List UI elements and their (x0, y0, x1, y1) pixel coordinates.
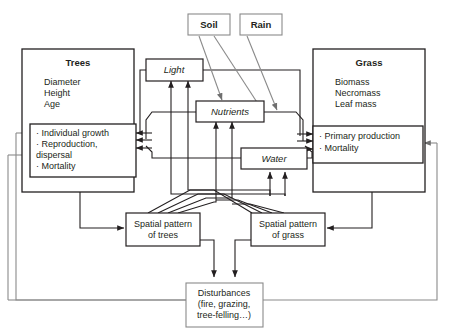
grass-process-0: · Primary production (319, 131, 400, 141)
diagram-canvas: Trees Diameter Height Age · Individual g… (0, 0, 449, 335)
arrow-rain-to-water (247, 36, 277, 110)
trees-attribute-2: Age (44, 99, 60, 109)
grass-attribute-0: Biomass (335, 77, 370, 87)
spatial-grass-line1: Spatial pattern (259, 219, 317, 229)
connector-group-inputs (199, 36, 277, 110)
disturbances-line2: (fire, grazing, (198, 299, 251, 309)
rain-label: Rain (251, 19, 272, 30)
trees-process-3: · Mortality (36, 161, 76, 171)
spatial-trees-line1: Spatial pattern (134, 219, 192, 229)
trees-process-0: · Individual growth (36, 128, 109, 138)
spatial-trees-line2: of trees (148, 230, 179, 240)
link-light-to-trees (140, 70, 146, 133)
link-nutrients-to-grass (264, 112, 303, 141)
link-spatial-grass-to-disturbances (235, 240, 251, 277)
link-grass-to-spatial-grass (327, 192, 372, 228)
link-spatial-trees-to-disturbances (200, 240, 214, 277)
grass-attribute-1: Necromass (335, 88, 381, 98)
cross-trees-to-nutrients (168, 182, 232, 213)
trees-title: Trees (66, 57, 91, 68)
grass-title: Grass (356, 57, 383, 68)
disturbances-line1: Disturbances (198, 288, 251, 298)
link-trees-to-spatial-trees (80, 192, 124, 228)
trees-process-2: dispersal (36, 150, 72, 160)
diagram-svg: Trees Diameter Height Age · Individual g… (0, 0, 449, 335)
disturbances-line3: tree-felling…) (197, 310, 251, 320)
trees-attribute-1: Height (44, 88, 71, 98)
spatial-grass-line2: of grass (272, 230, 305, 240)
trees-process-1: · Reproduction, (36, 139, 98, 149)
grass-process-1: · Mortality (319, 143, 359, 153)
light-label: Light (164, 64, 185, 75)
nutrients-label: Nutrients (211, 106, 249, 117)
link-water-to-trees (146, 146, 241, 158)
grass-attribute-2: Leaf mass (335, 99, 377, 109)
grass-outer-box[interactable] (313, 49, 425, 192)
cross-grass-to-nutrients (216, 200, 272, 213)
trees-attribute-0: Diameter (44, 77, 81, 87)
soil-label: Soil (200, 19, 217, 30)
water-label: Water (261, 153, 287, 164)
